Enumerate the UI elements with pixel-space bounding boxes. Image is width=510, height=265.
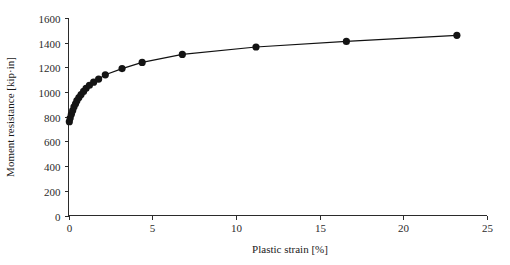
x-axis-title: Plastic strain [%] <box>252 243 328 255</box>
x-tick-label: 20 <box>398 222 410 234</box>
data-point-marker <box>179 51 186 58</box>
data-point-marker <box>453 32 460 39</box>
data-point-marker <box>343 38 350 45</box>
x-tick-label: 0 <box>67 222 73 234</box>
chart-canvas: 02004006008001000120014001600 0510152025… <box>0 0 510 265</box>
y-tick-label: 400 <box>44 161 61 173</box>
y-tick-label: 1400 <box>39 38 62 50</box>
y-tick-label: 1000 <box>39 87 62 99</box>
x-tick-label: 5 <box>150 222 156 234</box>
data-point-marker <box>252 43 259 50</box>
y-tick-label: 1600 <box>39 13 62 25</box>
y-tick-label: 1200 <box>39 62 62 74</box>
y-tick-label: 600 <box>44 136 61 148</box>
chart-figure: 02004006008001000120014001600 0510152025… <box>0 0 510 265</box>
y-tick-label: 200 <box>44 186 61 198</box>
x-tick-label: 15 <box>315 222 327 234</box>
y-axis-title: Moment resistance [kip·in] <box>4 57 16 177</box>
data-point-marker <box>102 71 109 78</box>
data-point-marker <box>118 65 125 72</box>
plot-area-background <box>68 18 487 215</box>
y-tick-label: 0 <box>55 211 61 223</box>
y-tick-label: 800 <box>44 112 61 124</box>
x-tick-label: 25 <box>482 222 494 234</box>
data-point-marker <box>139 59 146 66</box>
x-tick-label: 10 <box>231 222 243 234</box>
data-point-marker <box>95 76 102 83</box>
